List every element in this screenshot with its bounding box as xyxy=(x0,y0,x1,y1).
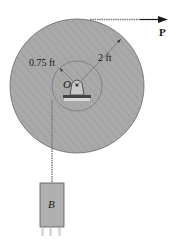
force-label: P xyxy=(159,27,166,38)
pin-label: O xyxy=(63,79,71,90)
inner-radius-label: 0.75 ft xyxy=(29,58,55,68)
block-label: B xyxy=(48,199,55,210)
force-arrowhead xyxy=(158,16,168,23)
block-shadow xyxy=(41,228,61,236)
outer-radius-label: 2 ft xyxy=(98,53,112,63)
pulley-diagram xyxy=(0,0,179,244)
